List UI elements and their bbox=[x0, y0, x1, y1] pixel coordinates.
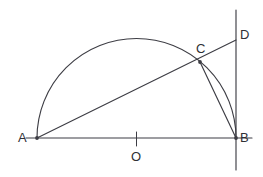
label-point-d: D bbox=[240, 28, 249, 41]
secant-segment-ad bbox=[37, 40, 236, 138]
chord-segment-cb bbox=[200, 62, 236, 138]
geometry-figure: A B C D O bbox=[0, 0, 263, 177]
label-point-c: C bbox=[196, 42, 205, 55]
label-point-b: B bbox=[240, 131, 249, 144]
vertex-point-b bbox=[234, 136, 238, 140]
vertex-point-c bbox=[198, 60, 202, 64]
label-point-o: O bbox=[131, 150, 141, 163]
vertex-point-a bbox=[35, 136, 39, 140]
label-point-a: A bbox=[18, 131, 27, 144]
